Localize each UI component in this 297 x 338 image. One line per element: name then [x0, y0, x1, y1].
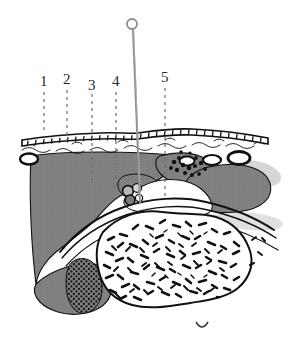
anatomy-illustration [0, 0, 297, 338]
callout-label-5: 5 [161, 70, 169, 85]
bottom-artifact-mark [196, 322, 208, 327]
callout-label-3: 3 [88, 78, 96, 93]
anatomical-figure: 12345 [0, 0, 297, 338]
callout-label-2: 2 [63, 72, 71, 87]
callout-label-1: 1 [40, 74, 48, 89]
callout-label-4: 4 [112, 74, 120, 89]
